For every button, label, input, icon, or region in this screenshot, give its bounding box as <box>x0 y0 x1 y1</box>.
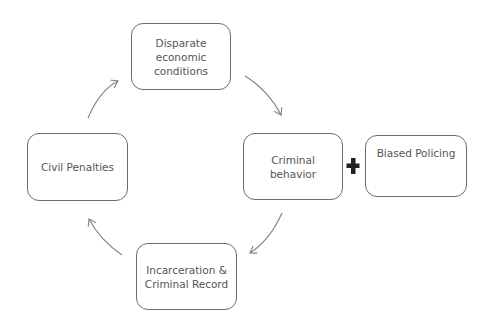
node-label-line: Incarceration & <box>145 263 228 277</box>
plus-icon <box>346 157 360 175</box>
arrow-incarceration-to-civil <box>89 219 122 255</box>
node-label-line: Disparate <box>154 36 208 50</box>
arrow-criminal-to-incarceration <box>250 213 282 253</box>
node-label-line: Criminal Record <box>145 277 228 291</box>
node-label-line: conditions <box>154 64 208 78</box>
node-label-line: economic <box>154 50 208 64</box>
node-label-line: Biased Policing <box>377 146 456 160</box>
node-label-line: behavior <box>270 167 316 181</box>
node-label-line: Civil Penalties <box>41 160 114 174</box>
arrow-civil-to-disparate <box>88 81 118 118</box>
node-label-line: Criminal <box>270 153 316 167</box>
node-civil-penalties: Civil Penalties <box>27 133 128 201</box>
node-biased-policing: Biased Policing <box>365 135 467 197</box>
arrow-disparate-to-criminal <box>245 76 281 115</box>
node-incarceration-criminal-record: Incarceration & Criminal Record <box>136 243 237 310</box>
node-disparate-economic-conditions: Disparate economic conditions <box>131 23 231 90</box>
node-criminal-behavior: Criminal behavior <box>243 133 343 200</box>
